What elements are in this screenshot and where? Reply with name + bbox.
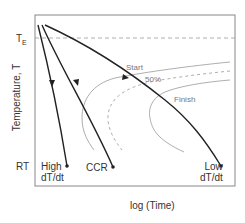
high-rate-label: High dT/dt	[41, 161, 64, 183]
low-rate-arrow-icon	[122, 74, 129, 80]
te-label: TE	[16, 33, 27, 48]
x-axis-label: log (Time)	[130, 200, 175, 211]
ccr-arrow-icon	[73, 79, 79, 86]
high-rate-arrow-icon	[49, 80, 55, 87]
rt-label: RT	[16, 161, 29, 172]
ccr-endpoint	[111, 165, 115, 169]
ttt-diagram	[0, 0, 245, 223]
finish-curve	[150, 80, 230, 152]
low-rate-label: Low dT/dt	[200, 161, 223, 183]
fifty-percent-label: 50%	[145, 74, 161, 85]
ccr-label: CCR	[86, 162, 108, 173]
y-axis-label: Temperature, T	[11, 48, 22, 148]
start-label: Start	[126, 62, 143, 73]
finish-label: Finish	[174, 94, 195, 105]
fifty-percent-curve	[108, 71, 230, 150]
ccr-cooling-line	[42, 25, 113, 167]
high-rate-endpoint	[65, 164, 69, 168]
